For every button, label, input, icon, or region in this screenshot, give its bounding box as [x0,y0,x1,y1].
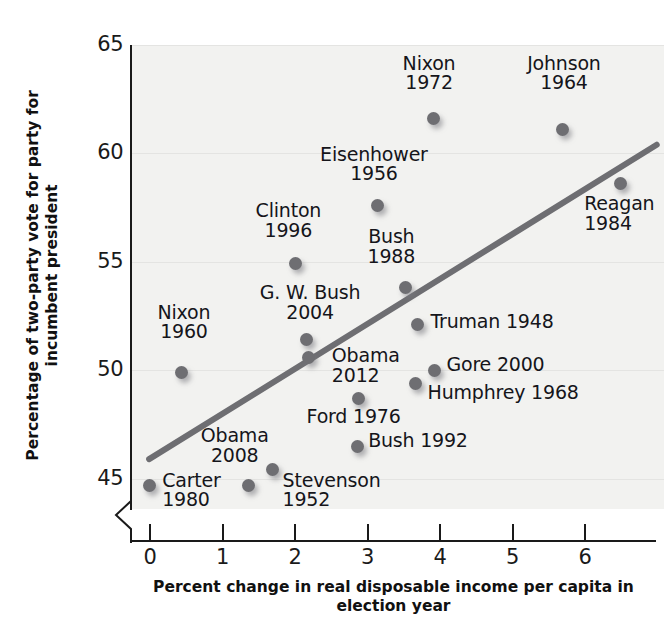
x-tick-label: 2 [280,545,310,569]
data-point [242,479,255,492]
data-point-label: Ford 1976 [307,407,401,427]
y-tick-label: 65 [61,32,123,56]
x-tick-label: 3 [353,545,383,569]
x-tick-mark [512,524,514,540]
y-tick-label: 45 [61,466,123,490]
x-tick-mark [439,524,441,540]
x-tick-mark [222,524,224,540]
data-point [411,318,424,331]
scatter-plot-figure: Carter 1980Nixon 1960Obama 2008Stevenson… [0,0,664,628]
data-point-label: Truman 1948 [430,312,553,332]
gridline [131,45,664,46]
y-tick-label: 50 [61,357,123,381]
plot-area: Carter 1980Nixon 1960Obama 2008Stevenson… [131,45,664,509]
data-point [409,377,422,390]
x-tick-mark [294,524,296,540]
x-tick-label: 0 [135,545,165,569]
data-point [427,112,440,125]
data-point-label: Obama 2008 [201,426,269,465]
data-point-label: Carter 1980 [162,471,220,509]
y-axis-break-icon [112,487,138,543]
data-point [143,479,156,492]
data-point-label: Gore 2000 [446,355,544,375]
data-point [614,177,627,190]
data-point [351,440,364,453]
data-point [428,364,441,377]
x-tick-label: 5 [498,545,528,569]
data-point-label: Nixon 1972 [403,54,456,93]
data-point [289,257,302,270]
x-axis-line [131,540,656,542]
x-tick-label: 6 [570,545,600,569]
data-point [399,281,412,294]
x-tick-label: 4 [425,545,455,569]
data-point-label: Humphrey 1968 [428,383,579,403]
data-point-label: Bush 1988 [368,227,416,266]
data-point-label: Nixon 1960 [158,303,211,342]
data-point-label: G. W. Bush 2004 [260,283,361,322]
x-axis-title: Percent change in real disposable income… [131,578,656,616]
data-point-label: Obama 2012 [332,346,400,385]
data-point-label: Reagan 1984 [584,194,654,233]
data-point-label: Eisenhower 1956 [320,145,428,184]
x-tick-mark [367,524,369,540]
y-tick-label: 55 [61,249,123,273]
x-tick-mark [149,524,151,540]
y-axis-title: Percentage of two-party vote for party f… [24,80,63,470]
y-tick-label: 60 [61,140,123,164]
data-point [300,333,313,346]
data-point-label: Johnson 1964 [527,54,600,93]
data-point-label: Stevenson 1952 [283,471,381,509]
x-tick-mark [584,524,586,540]
x-tick-label: 1 [208,545,238,569]
data-point [556,123,569,136]
data-point-label: Bush 1992 [368,431,468,451]
data-point [352,392,365,405]
data-point [302,351,315,364]
data-point-label: Clinton 1996 [256,201,322,240]
y-axis-line [130,45,132,510]
data-point [175,366,188,379]
data-point [371,199,384,212]
